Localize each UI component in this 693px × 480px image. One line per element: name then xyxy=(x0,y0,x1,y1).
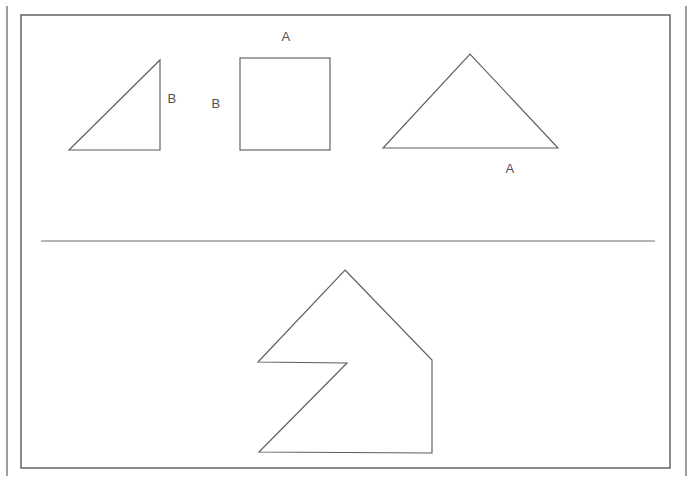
geometric-figure-canvas: B B A A xyxy=(0,0,693,480)
label-a-square-top: A xyxy=(282,29,291,44)
label-b-right-triangle: B xyxy=(168,91,177,106)
label-a-triangle-bottom: A xyxy=(506,161,515,176)
figure-root: B B A A xyxy=(0,0,693,480)
figure-background xyxy=(0,0,693,480)
label-b-square-left: B xyxy=(212,96,221,111)
